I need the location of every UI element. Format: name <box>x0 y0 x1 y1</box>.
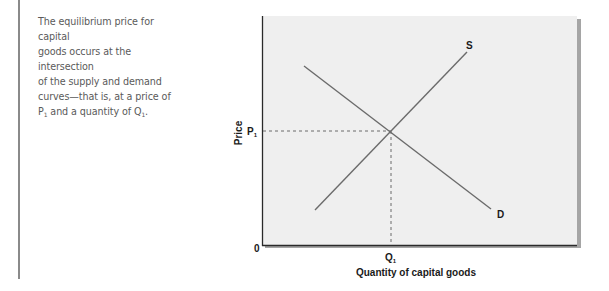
q1-label: Q1 <box>385 252 397 264</box>
supply-label: S <box>466 40 473 51</box>
demand-label: D <box>497 209 504 220</box>
x-axis-title: Quantity of capital goods <box>356 267 476 278</box>
origin-label: 0 <box>254 243 260 254</box>
p1-label: P1 <box>247 126 258 138</box>
y-axis-title: Price <box>233 120 244 145</box>
plot-panel <box>262 16 577 245</box>
supply-demand-chart: S D 0 P1 Q1 Quantity of capital goods Pr… <box>0 0 609 291</box>
